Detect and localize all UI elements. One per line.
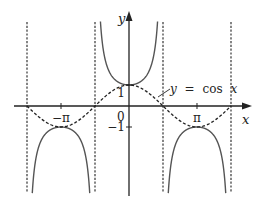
y-axis-arrow <box>126 11 133 21</box>
cos-annotation-fn: cos <box>203 82 223 96</box>
x-axis-label: x <box>242 112 250 127</box>
origin-label: 0 <box>117 110 125 124</box>
sec-branch-0 <box>32 127 89 193</box>
cos-annotation-eq: = <box>185 82 195 96</box>
axes <box>14 11 252 196</box>
sec-branch-2 <box>168 127 225 193</box>
y-axis-label: y <box>117 11 126 26</box>
x-axis-arrow <box>242 103 252 110</box>
cos-annotation-y: y <box>169 82 177 96</box>
x-tick-label-0: −π <box>52 111 70 125</box>
sec-cos-graph: −ππ1−1 y x 0 y = cos x <box>0 0 264 200</box>
labels: y x 0 y = cos x <box>117 11 250 127</box>
cos-label-leader <box>158 89 170 97</box>
cos-annotation: y = cos x <box>169 82 237 96</box>
cos-annotation-x: x <box>230 82 237 96</box>
y-tick-label-0: 1 <box>117 86 125 100</box>
x-tick-label-1: π <box>193 111 201 125</box>
